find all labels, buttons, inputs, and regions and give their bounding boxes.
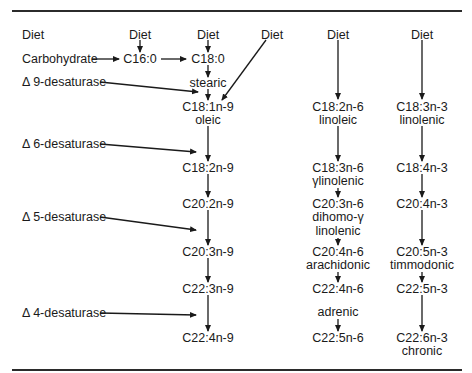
n6-node-formula: C22:5n-6 bbox=[312, 331, 363, 345]
diet-label-c16: Diet bbox=[129, 28, 151, 42]
n6-node-formula: C20:4n-6 bbox=[312, 245, 363, 259]
c16-0-node: C16:0 bbox=[123, 52, 156, 66]
n3-node-formula: C20:5n-3 bbox=[396, 245, 447, 259]
n6-node-formula: C18:3n-6 bbox=[312, 161, 363, 175]
n3-node-formula: C22:6n-3 bbox=[396, 331, 447, 345]
stearic-name: stearic bbox=[190, 76, 227, 90]
n9-node-formula: C20:3n-9 bbox=[182, 245, 233, 259]
n9-node-formula: C22:4n-9 bbox=[182, 331, 233, 345]
c18-0-node: C18:0 bbox=[191, 52, 224, 66]
n9-node-formula: C18:1n-9 bbox=[182, 100, 233, 114]
n9-node-formula: C20:2n-9 bbox=[182, 197, 233, 211]
diet-label-oblique: Diet bbox=[261, 28, 283, 42]
diet-label-left: Diet bbox=[22, 28, 44, 42]
diet-label-c18: Diet bbox=[197, 28, 219, 42]
n6-node-name: γlinolenic bbox=[312, 174, 363, 188]
enzyme-d6-label: Δ 6-desaturase bbox=[22, 137, 106, 151]
n3-node-formula: C18:4n-3 bbox=[396, 161, 447, 175]
n3-node-name: timmodonic bbox=[390, 258, 454, 272]
n6-node-formula: C20:3n-6 bbox=[312, 197, 363, 211]
n6-node-formula: C18:2n-6 bbox=[312, 100, 363, 114]
n3-node-formula: C18:3n-3 bbox=[396, 100, 447, 114]
n9-node-name: oleic bbox=[195, 113, 221, 127]
n3-node-name: linolenic bbox=[399, 113, 444, 127]
enzyme-d9-label: Δ 9-desaturase bbox=[22, 75, 106, 89]
n6-node-formula: C22:4n-6 bbox=[312, 282, 363, 296]
n6-node-name: arachidonic bbox=[306, 258, 370, 272]
n9-node-formula: C22:3n-9 bbox=[182, 282, 233, 296]
enzyme-d4-label: Δ 4-desaturase bbox=[22, 306, 106, 320]
n9-node-formula: C18:2n-9 bbox=[182, 161, 233, 175]
n6-node-name: adrenic bbox=[318, 305, 359, 319]
diet-label-n3: Diet bbox=[411, 28, 433, 42]
n6-node-name: dihomo-γ bbox=[312, 210, 363, 224]
n3-node-name: chronic bbox=[402, 344, 442, 358]
diet-label-n6: Diet bbox=[327, 28, 349, 42]
n3-node-formula: C22:5n-3 bbox=[396, 282, 447, 296]
n6-node-name: linoleic bbox=[319, 113, 357, 127]
carbohydrate-label: Carbohydrate bbox=[22, 52, 98, 66]
n3-node-formula: C20:4n-3 bbox=[396, 197, 447, 211]
n6-node-name-2: linolenic bbox=[315, 224, 360, 238]
enzyme-d5-label: Δ 5-desaturase bbox=[22, 210, 106, 224]
